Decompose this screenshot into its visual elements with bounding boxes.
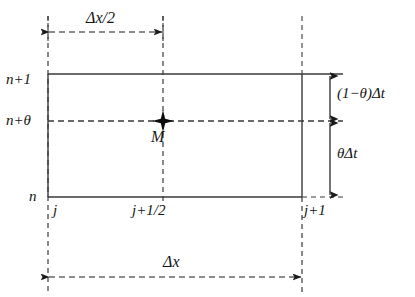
- axis-label-j: j: [53, 203, 57, 218]
- axis-label-j-plus-half: j+1/2: [132, 203, 165, 218]
- axis-label-j-text: j: [53, 202, 57, 218]
- point-m-label: M: [151, 129, 164, 145]
- axis-label-j-plus-1: j+1: [304, 203, 326, 218]
- dimension-label-delta-x: Δx: [163, 254, 180, 270]
- dimension-label-one-minus-theta-delta-t: (1−θ)Δt: [337, 86, 385, 101]
- axis-label-n-plus-theta: n+θ: [6, 113, 31, 128]
- axis-label-j-plus-half-text: j+1/2: [132, 202, 165, 218]
- axis-label-n-plus-1: n+1: [6, 72, 31, 87]
- dimension-label-delta-x-half-text: Δx/2: [86, 9, 115, 26]
- dimension-label-theta-delta-t: θΔt: [337, 146, 357, 161]
- axis-label-j-plus-1-text: j+1: [304, 202, 326, 218]
- dimension-label-delta-x-half: Δx/2: [86, 10, 115, 26]
- dimension-label-one-minus-theta-delta-t-text: (1−θ)Δt: [337, 85, 385, 101]
- axis-label-n-text: n: [29, 188, 37, 204]
- axis-label-n: n: [29, 189, 37, 204]
- dimension-label-delta-x-text: Δx: [163, 253, 180, 270]
- axis-label-n-plus-theta-text: n+θ: [6, 112, 31, 128]
- point-m-label-text: M: [151, 128, 164, 145]
- finite-difference-cell-diagram: n+1 n+θ n j j+1/2 j+1 M Δx/2 Δx (1−θ)Δt …: [0, 0, 415, 297]
- axis-label-n-plus-1-text: n+1: [6, 71, 31, 87]
- dimension-label-theta-delta-t-text: θΔt: [337, 145, 357, 161]
